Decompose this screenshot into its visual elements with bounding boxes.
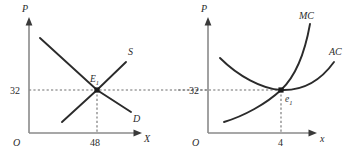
left-quantity-tick-label: 48 [90, 137, 100, 148]
right-price-tick-label: 32 [189, 85, 199, 96]
supply-curve [62, 62, 126, 122]
average-cost-curve-label: AC [328, 46, 342, 57]
tangency-point-label: e1 [285, 94, 292, 106]
average-cost-curve [220, 58, 334, 90]
right-x-axis-arrowhead [309, 130, 318, 137]
equilibrium-point-label: E1 [89, 74, 99, 86]
equilibrium-point-marker [94, 87, 99, 92]
left-x-axis-arrowhead [134, 130, 143, 137]
right-quantity-tick-label: 4 [278, 137, 283, 148]
marginal-cost-curve-label: MC [298, 10, 314, 21]
left-y-axis-label: P [21, 3, 28, 14]
right-y-axis-arrowhead [205, 17, 212, 26]
figure-canvas: P X O S D 32 48 E1 [0, 0, 351, 159]
left-panel-market-diagram: P X O S D 32 48 E1 [10, 3, 207, 148]
left-y-axis-arrowhead [26, 17, 33, 26]
right-y-axis-label: P [200, 3, 207, 14]
right-panel-cost-diagram: P x O MC AC 32 4 e1 [178, 3, 342, 148]
tangency-point-marker [278, 87, 283, 92]
economics-two-panel-figure: P X O S D 32 48 E1 [0, 0, 351, 159]
right-x-axis-label: x [319, 133, 325, 144]
supply-curve-label: S [128, 46, 133, 57]
demand-curve-label: D [132, 113, 141, 124]
left-origin-label: O [13, 137, 20, 148]
left-x-axis-label: X [143, 133, 151, 144]
left-price-tick-label: 32 [10, 85, 20, 96]
right-origin-label: O [192, 137, 199, 148]
